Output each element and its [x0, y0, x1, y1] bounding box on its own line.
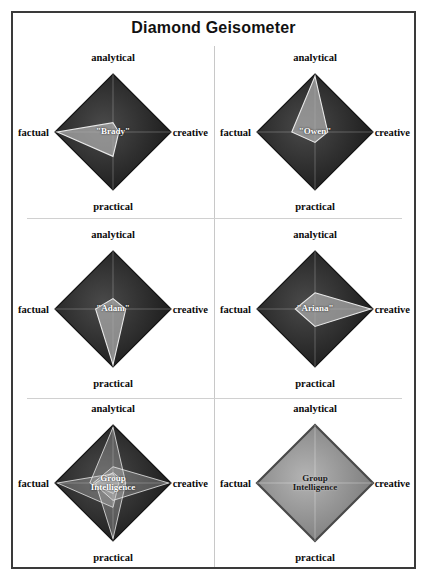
diamond-glyph: [51, 70, 175, 194]
axis-label-analytical: analytical: [91, 403, 135, 414]
axis-label-analytical: analytical: [91, 229, 135, 240]
axis-label-factual: factual: [18, 478, 49, 489]
radar-plot: analytical practical factual creative "B…: [18, 52, 208, 212]
axis-label-factual: factual: [220, 127, 251, 138]
panel-group-intelligence-overlay[interactable]: analytical practical factual creative Gr…: [13, 399, 213, 567]
panel-grid: analytical practical factual creative "B…: [13, 46, 414, 567]
axis-label-factual: factual: [18, 127, 49, 138]
radar-plot: analytical practical factual creative Gr…: [220, 403, 410, 563]
diamond-glyph: [253, 421, 377, 545]
panel-ariana[interactable]: analytical practical factual creative "A…: [215, 219, 415, 398]
chart-frame: Diamond Geisometer analytical practical …: [11, 11, 416, 569]
axis-label-factual: factual: [18, 303, 49, 314]
radar-plot: analytical practical factual creative "O…: [220, 52, 410, 212]
axis-label-factual: factual: [220, 478, 251, 489]
axis-label-creative: creative: [173, 127, 208, 138]
diamond-glyph: [253, 247, 377, 371]
axis-label-analytical: analytical: [293, 229, 337, 240]
axis-label-creative: creative: [375, 303, 410, 314]
axis-label-practical: practical: [93, 201, 133, 212]
panel-adam[interactable]: analytical practical factual creative "A…: [13, 219, 213, 398]
axis-label-analytical: analytical: [293, 52, 337, 63]
axis-label-creative: creative: [173, 303, 208, 314]
axis-label-creative: creative: [375, 127, 410, 138]
radar-plot: analytical practical factual creative Gr…: [18, 403, 208, 563]
axis-label-factual: factual: [220, 303, 251, 314]
axis-label-practical: practical: [295, 378, 335, 389]
axis-label-analytical: analytical: [91, 52, 135, 63]
radar-plot: analytical practical factual creative "A…: [18, 229, 208, 389]
panel-group-intelligence-full[interactable]: analytical practical factual creative Gr…: [215, 399, 415, 567]
panel-brady[interactable]: analytical practical factual creative "B…: [13, 46, 213, 218]
axis-label-analytical: analytical: [293, 403, 337, 414]
page-title: Diamond Geisometer: [13, 19, 414, 37]
axis-label-practical: practical: [93, 378, 133, 389]
axis-label-creative: creative: [375, 478, 410, 489]
diamond-glyph: [253, 70, 377, 194]
panel-owen[interactable]: analytical practical factual creative "O…: [215, 46, 415, 218]
diamond-glyph: [51, 421, 175, 545]
axis-label-practical: practical: [295, 201, 335, 212]
diamond-glyph: [51, 247, 175, 371]
axis-label-practical: practical: [93, 552, 133, 563]
axis-label-practical: practical: [295, 552, 335, 563]
axis-label-creative: creative: [173, 478, 208, 489]
radar-plot: analytical practical factual creative "A…: [220, 229, 410, 389]
